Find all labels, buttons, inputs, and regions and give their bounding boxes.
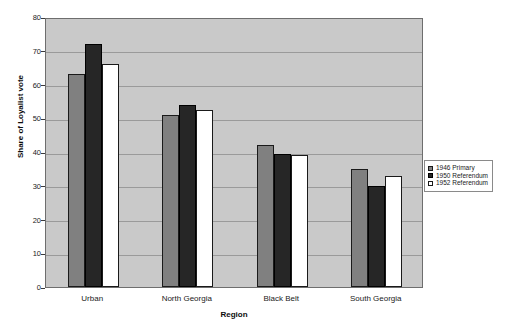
bar: [179, 105, 196, 287]
bar: [274, 154, 291, 287]
x-axis-tick-labels: UrbanNorth GeorgiaBlack BeltSouth Georgi…: [45, 295, 423, 309]
x-axis-tick-label: Urban: [45, 295, 140, 303]
bar-group: [68, 19, 119, 287]
chart-legend: 1946 Primary1950 Referendum1952 Referend…: [424, 160, 493, 192]
x-axis-tick-label: North Georgia: [140, 295, 235, 303]
legend-item: 1952 Referendum: [428, 180, 488, 187]
bar: [68, 74, 85, 287]
legend-item: 1946 Primary: [428, 165, 488, 172]
legend-swatch-icon: [428, 166, 433, 171]
y-axis-tick-label: 10: [15, 250, 41, 258]
y-axis-tick-label: 80: [15, 14, 41, 22]
bar: [196, 110, 213, 287]
bar: [162, 115, 179, 287]
bar: [385, 176, 402, 287]
x-axis-title: Region: [45, 310, 423, 319]
bar: [85, 44, 102, 287]
bar: [291, 155, 308, 287]
bar-group: [351, 19, 402, 287]
legend-swatch-icon: [428, 173, 433, 178]
x-axis-tick-label: Black Belt: [234, 295, 329, 303]
y-axis-tick-label: 20: [15, 217, 41, 225]
bar-group: [162, 19, 213, 287]
legend-swatch-icon: [428, 181, 433, 186]
legend-label: 1946 Primary: [436, 165, 475, 172]
x-axis-tick-label: South Georgia: [329, 295, 424, 303]
bar: [257, 145, 274, 287]
bar: [102, 64, 119, 287]
y-axis-tick-label: 30: [15, 183, 41, 191]
plot-area: [45, 18, 423, 288]
bar: [368, 186, 385, 287]
y-axis-tick-label: 40: [15, 149, 41, 157]
y-axis-tick-label: 0: [15, 284, 41, 292]
legend-label: 1952 Referendum: [436, 180, 488, 187]
y-axis-tick-label: 60: [15, 82, 41, 90]
bars-layer: [46, 19, 422, 287]
bar-group: [257, 19, 308, 287]
y-axis-tick-label: 70: [15, 48, 41, 56]
y-axis-tick-labels: 01020304050607080: [11, 18, 41, 288]
bar-chart: Share of Loyalist vote 01020304050607080…: [0, 0, 511, 335]
bar: [351, 169, 368, 287]
y-axis-tick-label: 50: [15, 115, 41, 123]
